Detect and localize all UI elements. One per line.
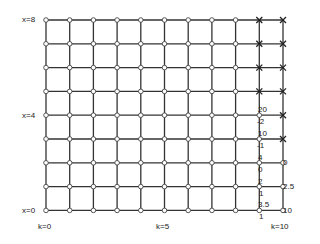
- grid-node-icon: [67, 65, 72, 70]
- annotation-2: 2: [258, 178, 262, 186]
- grid-node-icon: [162, 42, 167, 47]
- grid-node-icon: [186, 184, 191, 189]
- grid-node-icon: [233, 137, 238, 142]
- grid-node-icon: [139, 42, 144, 47]
- grid-node-icon: [210, 65, 215, 70]
- grid-node-icon: [67, 184, 72, 189]
- annotation-1b: 1: [259, 213, 263, 221]
- grid-node-icon: [233, 113, 238, 118]
- grid-node-icon: [233, 184, 238, 189]
- grid-node-icon: [210, 208, 215, 213]
- grid-node-icon: [186, 137, 191, 142]
- grid-node-icon: [162, 208, 167, 213]
- grid-node-icon: [139, 184, 144, 189]
- grid-node-icon: [115, 161, 120, 166]
- grid-node-icon: [115, 208, 120, 213]
- grid-node-icon: [115, 113, 120, 118]
- grid-node-icon: [115, 89, 120, 94]
- grid-node-icon: [210, 113, 215, 118]
- grid-node-icon: [67, 89, 72, 94]
- grid-node-icon: [210, 137, 215, 142]
- annotation-3.5: 3.5: [258, 201, 269, 209]
- grid-node-icon: [44, 89, 49, 94]
- label-k0: k=0: [38, 223, 51, 231]
- grid-node-icon: [162, 113, 167, 118]
- annotation-4: 4: [258, 154, 262, 162]
- grid-node-icon: [91, 65, 96, 70]
- grid-node-icon: [44, 42, 49, 47]
- grid-node-icon: [67, 137, 72, 142]
- annotation-0b: 0: [283, 159, 287, 167]
- grid-node-icon: [115, 65, 120, 70]
- label-k5: k=5: [156, 223, 169, 231]
- grid-node-icon: [139, 113, 144, 118]
- grid-node-icon: [233, 65, 238, 70]
- grid-node-icon: [162, 161, 167, 166]
- grid-node-icon: [44, 113, 49, 118]
- grid-node-icon: [115, 184, 120, 189]
- grid-node-icon: [210, 42, 215, 47]
- grid-node-icon: [91, 184, 96, 189]
- grid-node-icon: [91, 18, 96, 23]
- grid-node-icon: [210, 184, 215, 189]
- grid-node-icon: [91, 208, 96, 213]
- grid-node-icon: [91, 161, 96, 166]
- grid-node-icon: [210, 18, 215, 23]
- grid-node-icon: [233, 89, 238, 94]
- grid-node-icon: [44, 184, 49, 189]
- grid-node-icon: [210, 161, 215, 166]
- grid-node-icon: [186, 161, 191, 166]
- grid-node-icon: [139, 65, 144, 70]
- grid-node-icon: [186, 113, 191, 118]
- grid-node-icon: [44, 208, 49, 213]
- grid-node-icon: [233, 18, 238, 23]
- grid-node-icon: [139, 18, 144, 23]
- grid-node-icon: [186, 18, 191, 23]
- grid-node-icon: [115, 42, 120, 47]
- annotation-10: 10: [258, 130, 267, 138]
- grid-node-icon: [139, 137, 144, 142]
- annotation-10b: 10: [283, 207, 292, 215]
- grid-node-icon: [162, 184, 167, 189]
- grid-node-icon: [139, 89, 144, 94]
- grid-node-icon: [233, 161, 238, 166]
- grid-node-icon: [91, 42, 96, 47]
- grid-node-icon: [162, 89, 167, 94]
- label-x8: x=8: [22, 16, 35, 24]
- grid-node-icon: [210, 89, 215, 94]
- grid-node-icon: [162, 137, 167, 142]
- grid-node-icon: [186, 65, 191, 70]
- grid-node-icon: [233, 208, 238, 213]
- grid-node-icon: [162, 18, 167, 23]
- annotation-neg1: -1: [257, 142, 264, 150]
- label-x4: x=4: [22, 112, 35, 120]
- grid-node-icon: [186, 89, 191, 94]
- grid-node-icon: [91, 137, 96, 142]
- grid-node-icon: [67, 18, 72, 23]
- label-x0: x=0: [22, 207, 35, 215]
- annotation-neg2: -2: [257, 118, 264, 126]
- grid-node-icon: [44, 18, 49, 23]
- annotation-0a: 0: [258, 166, 262, 174]
- grid-node-icon: [91, 113, 96, 118]
- grid-node-icon: [67, 208, 72, 213]
- grid-node-icon: [67, 42, 72, 47]
- grid-node-icon: [233, 42, 238, 47]
- grid-node-icon: [67, 113, 72, 118]
- annotation-2.5: 2.5: [283, 183, 294, 191]
- grid-node-icon: [186, 208, 191, 213]
- grid-node-icon: [139, 161, 144, 166]
- grid-node-icon: [162, 65, 167, 70]
- grid-node-icon: [44, 161, 49, 166]
- annotation-20: 20: [258, 106, 267, 114]
- annotation-1a: 1: [259, 190, 263, 198]
- grid-node-icon: [139, 208, 144, 213]
- grid-node-icon: [115, 137, 120, 142]
- label-k10: k=10: [271, 223, 289, 231]
- grid-node-icon: [44, 65, 49, 70]
- grid-node-icon: [44, 137, 49, 142]
- grid-node-icon: [67, 161, 72, 166]
- grid-node-icon: [91, 89, 96, 94]
- grid-node-icon: [186, 42, 191, 47]
- grid-node-icon: [115, 18, 120, 23]
